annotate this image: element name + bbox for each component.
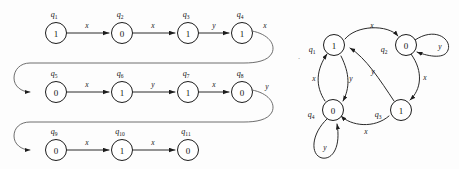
- transition-label-rg-q1-q4: y: [348, 74, 353, 83]
- transition-label-rg-q3-q1: y: [370, 67, 375, 76]
- state-value-q10: 1: [120, 146, 125, 156]
- left-row-1: 1 q1 x 0 q2 x 1 q3: [14, 10, 273, 93]
- transition-label-rg-q2-q3: x: [422, 73, 427, 82]
- state-node-q8[interactable]: 0 q8: [232, 69, 253, 103]
- state-label-rg-q4: q4: [308, 110, 315, 120]
- state-node-q10[interactable]: 1 q10: [112, 127, 133, 161]
- transition-rg-q1-q4: [341, 56, 348, 101]
- wrap-label-row2: y: [264, 82, 269, 91]
- transition-label-rg-q4-q1: x: [311, 74, 316, 83]
- transition-label-rg-q3-q4: x: [363, 127, 368, 136]
- state-label-q5: q5: [51, 69, 58, 79]
- left-row-3: 0 q9 x 1 q10 x 0 q11: [46, 127, 199, 161]
- state-label-q1: q1: [51, 10, 58, 20]
- state-node-q6[interactable]: 1 q6: [112, 69, 133, 103]
- transition-label-q10-q11: x: [150, 138, 155, 147]
- transition-label-rg-q4-self: y: [322, 143, 327, 152]
- state-label-q2: q2: [117, 10, 124, 20]
- transition-rg-q2-self: [415, 34, 449, 56]
- state-label-q9: q9: [51, 127, 58, 137]
- state-node-q5[interactable]: 0 q5: [46, 69, 67, 103]
- state-node-rg-q3[interactable]: 1 q3: [375, 100, 412, 121]
- state-label-q6: q6: [117, 69, 124, 79]
- state-value-q5: 0: [54, 88, 59, 98]
- state-label-q4: q4: [237, 10, 244, 20]
- state-value-q4: 1: [240, 29, 245, 39]
- state-value-q2: 0: [120, 29, 125, 39]
- transition-label-q1-q2: x: [84, 21, 89, 30]
- state-node-q7[interactable]: 1 q7: [178, 69, 199, 103]
- transition-rg-q3-q4: [341, 116, 389, 125]
- left-row-2: 0 q5 x 1 q6 y 1 q7: [14, 69, 273, 151]
- state-node-q4[interactable]: 1 q4: [232, 10, 253, 44]
- state-label-rg-q3: q3: [375, 110, 382, 120]
- state-node-q3[interactable]: 1 q3: [178, 10, 199, 44]
- transition-label-rg-q2-self: y: [437, 42, 442, 51]
- transition-label-rg-q1-q2: x: [369, 21, 374, 30]
- state-node-q1[interactable]: 1 q1: [46, 10, 67, 44]
- state-node-q2[interactable]: 0 q2: [112, 10, 133, 44]
- state-value-rg-q4: 0: [331, 106, 336, 116]
- state-node-q9[interactable]: 0 q9: [46, 127, 67, 161]
- state-value-q3: 1: [186, 29, 191, 39]
- state-node-rg-q2[interactable]: 0 q2: [381, 35, 417, 56]
- state-label-q11: q11: [181, 127, 191, 137]
- transition-label-q3-q4: y: [211, 21, 216, 30]
- state-node-rg-q1[interactable]: 1 q1: [309, 35, 345, 56]
- state-label-q7: q7: [183, 69, 190, 79]
- state-value-q8: 0: [240, 88, 245, 98]
- state-value-q6: 1: [120, 88, 125, 98]
- transition-rg-q4-q1: [318, 54, 327, 101]
- wrap-label-row1: x: [262, 21, 267, 30]
- transition-label-q7-q8: x: [211, 80, 216, 89]
- fsm-figure-canvas: 1 q1 x 0 q2 x 1 q3: [0, 0, 459, 169]
- state-value-q9: 0: [54, 146, 59, 156]
- transition-label-q9-q10: x: [84, 138, 89, 147]
- state-label-q3: q3: [183, 10, 190, 20]
- state-label-q10: q10: [115, 127, 125, 137]
- transition-label-q6-q7: y: [150, 80, 155, 89]
- figure-root: 1 q1 x 0 q2 x 1 q3: [0, 0, 459, 169]
- state-value-rg-q1: 1: [332, 41, 337, 51]
- transition-rg-q4-self: [314, 119, 338, 158]
- state-value-rg-q2: 0: [404, 41, 409, 51]
- transition-label-q2-q3: x: [150, 21, 155, 30]
- ink-speck: ·: [298, 54, 300, 63]
- state-value-q7: 1: [186, 88, 191, 98]
- state-node-q11[interactable]: 0 q11: [178, 127, 199, 161]
- state-node-rg-q4[interactable]: 0 q4: [308, 100, 344, 121]
- state-label-rg-q1: q1: [309, 45, 316, 55]
- state-value-rg-q3: 1: [399, 106, 404, 116]
- left-diagram: 1 q1 x 0 q2 x 1 q3: [14, 10, 273, 161]
- state-value-q1: 1: [54, 29, 59, 39]
- transition-label-q5-q6: x: [84, 80, 89, 89]
- state-label-q8: q8: [237, 69, 244, 79]
- transition-rg-q2-q3: [410, 54, 420, 100]
- state-value-q11: 0: [186, 146, 191, 156]
- right-diagram: x y y x y x x y 1: [308, 21, 449, 159]
- state-label-rg-q2: q2: [381, 45, 388, 55]
